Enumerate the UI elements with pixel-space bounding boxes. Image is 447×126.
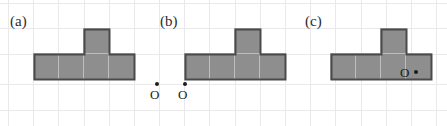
gridline-horizontal — [0, 110, 447, 111]
shape-cell — [355, 53, 382, 80]
shape-cell — [234, 28, 261, 55]
shape-cell — [33, 53, 60, 80]
panel-c-caption: (c) — [305, 14, 322, 29]
shape-cell — [83, 53, 110, 80]
panel-a-caption: (a) — [10, 14, 27, 29]
shape-cell — [234, 53, 261, 80]
shape-cell — [209, 53, 236, 80]
shape-cell — [330, 53, 357, 80]
shape-cell — [108, 53, 135, 80]
gridline-vertical — [8, 0, 9, 126]
panel-b-shape — [184, 28, 284, 78]
panel-a-shape — [33, 28, 133, 78]
gridline-vertical — [436, 0, 437, 126]
gridline-horizontal — [0, 84, 447, 85]
panel-a-center-point-dot — [155, 82, 159, 86]
panel-b-center-point-dot — [183, 82, 187, 86]
shape-cell — [259, 53, 286, 80]
shape-cell — [380, 28, 407, 55]
figure-canvas: (a)O(b)O(c)O — [0, 0, 447, 126]
panel-a-center-point-label: O — [150, 88, 159, 101]
shape-cell — [58, 53, 85, 80]
panel-c-center-point-dot — [414, 70, 418, 74]
panel-b-center-point-label: O — [178, 88, 187, 101]
panel-b-caption: (b) — [160, 14, 178, 29]
panel-c-center-point-label: O — [400, 66, 409, 79]
shape-cell — [83, 28, 110, 55]
gridline-horizontal — [0, 3, 447, 4]
shape-cell — [184, 53, 211, 80]
